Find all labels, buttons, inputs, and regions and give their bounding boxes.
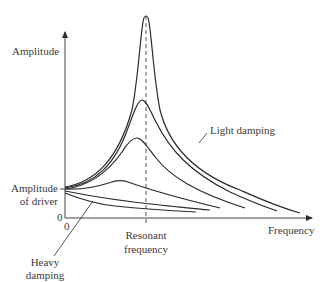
amplitude-of-driver-label-line1: Amplitude bbox=[8, 182, 58, 195]
x-axis-label: Frequency bbox=[268, 224, 314, 237]
amplitude-of-driver-label-line2: of driver bbox=[8, 195, 58, 208]
heavy-damping-curve bbox=[65, 193, 196, 212]
y-origin-label: 0 bbox=[57, 211, 63, 224]
damping-curve-4 bbox=[65, 181, 220, 209]
light-damping-curve bbox=[65, 16, 300, 213]
damping-curve-2 bbox=[65, 100, 277, 211]
resonant-frequency-label-line1: Resonant bbox=[116, 229, 176, 242]
resonance-diagram: Amplitude Amplitude of driver 0 0 Resona… bbox=[0, 0, 326, 282]
light-damping-leader bbox=[199, 133, 207, 143]
y-axis-label: Amplitude bbox=[12, 45, 59, 58]
heavy-damping-label-line1: Heavy bbox=[18, 256, 72, 269]
light-damping-label: Light damping bbox=[210, 124, 275, 137]
damping-curve-3 bbox=[65, 138, 245, 208]
x-origin-label: 0 bbox=[64, 220, 70, 233]
heavy-damping-leader bbox=[54, 201, 93, 256]
heavy-damping-label-line2: damping bbox=[18, 269, 72, 282]
resonant-frequency-label-line2: frequency bbox=[116, 243, 176, 256]
